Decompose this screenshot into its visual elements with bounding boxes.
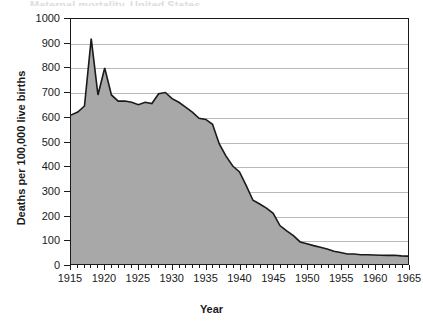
x-tick-1921	[111, 265, 112, 268]
x-tick-1958	[362, 265, 363, 268]
y-tick-label-900: 900	[4, 38, 60, 49]
x-tick-1944	[267, 265, 268, 268]
y-tick-label-200: 200	[4, 211, 60, 222]
x-tick-1957	[355, 265, 356, 268]
x-tick-1948	[294, 265, 295, 268]
y-tick-label-500: 500	[4, 137, 60, 148]
x-tick-1949	[301, 265, 302, 268]
x-tick-1933	[192, 265, 193, 268]
x-tick-1929	[165, 265, 166, 268]
x-tick-1917	[84, 265, 85, 268]
y-tick-label-0: 0	[4, 260, 60, 271]
x-tick-1928	[158, 265, 159, 268]
x-tick-1915	[70, 265, 71, 270]
x-tick-1920	[104, 265, 105, 270]
x-tick-1961	[382, 265, 383, 268]
x-tick-1950	[307, 265, 308, 270]
x-tick-1937	[219, 265, 220, 268]
x-tick-1923	[124, 265, 125, 268]
y-tick-700	[64, 92, 70, 93]
x-tick-1938	[226, 265, 227, 268]
y-tick-100	[64, 240, 70, 241]
y-tick-label-600: 600	[4, 112, 60, 123]
y-tick-label-1000: 1000	[4, 13, 60, 24]
x-tick-1954	[334, 265, 335, 268]
x-tick-1946	[280, 265, 281, 268]
area-fill	[71, 39, 408, 264]
x-tick-1918	[90, 265, 91, 268]
y-tick-600	[64, 117, 70, 118]
y-tick-label-100: 100	[4, 235, 60, 246]
y-tick-400	[64, 166, 70, 167]
x-tick-1941	[246, 265, 247, 268]
x-axis-title: Year	[0, 303, 423, 315]
x-tick-1936	[212, 265, 213, 268]
x-tick-1924	[131, 265, 132, 268]
y-tick-300	[64, 191, 70, 192]
x-tick-1959	[368, 265, 369, 268]
x-tick-label-1965: 1965	[389, 273, 423, 284]
x-tick-1925	[138, 265, 139, 270]
y-tick-900	[64, 43, 70, 44]
x-tick-1960	[375, 265, 376, 270]
x-tick-1947	[287, 265, 288, 268]
x-tick-1943	[260, 265, 261, 268]
x-tick-1965	[409, 265, 410, 270]
x-tick-1926	[145, 265, 146, 268]
y-tick-800	[64, 67, 70, 68]
x-tick-1922	[118, 265, 119, 268]
y-tick-label-300: 300	[4, 186, 60, 197]
x-tick-1927	[151, 265, 152, 268]
x-tick-1952	[321, 265, 322, 268]
x-tick-1963	[395, 265, 396, 268]
y-tick-label-800: 800	[4, 62, 60, 73]
y-tick-200	[64, 216, 70, 217]
x-tick-1942	[253, 265, 254, 268]
x-tick-1916	[77, 265, 78, 268]
plot-area	[70, 18, 409, 265]
x-tick-1930	[172, 265, 173, 270]
x-tick-1956	[348, 265, 349, 268]
y-tick-500	[64, 142, 70, 143]
x-tick-1962	[389, 265, 390, 268]
area-series	[71, 19, 408, 264]
maternal-mortality-area-chart: Maternal mortality, United States Deaths…	[0, 0, 423, 326]
x-tick-1964	[402, 265, 403, 268]
x-tick-1940	[240, 265, 241, 270]
y-tick-label-700: 700	[4, 87, 60, 98]
y-tick-label-400: 400	[4, 161, 60, 172]
x-tick-1935	[206, 265, 207, 270]
x-tick-1932	[185, 265, 186, 268]
x-tick-1939	[233, 265, 234, 268]
x-tick-1934	[199, 265, 200, 268]
x-tick-1931	[179, 265, 180, 268]
x-tick-1951	[314, 265, 315, 268]
y-tick-1000	[64, 18, 70, 19]
x-tick-1919	[97, 265, 98, 268]
chart-title-cropped: Maternal mortality, United States	[30, 0, 330, 6]
x-tick-1945	[273, 265, 274, 270]
x-tick-1955	[341, 265, 342, 270]
x-tick-1953	[328, 265, 329, 268]
